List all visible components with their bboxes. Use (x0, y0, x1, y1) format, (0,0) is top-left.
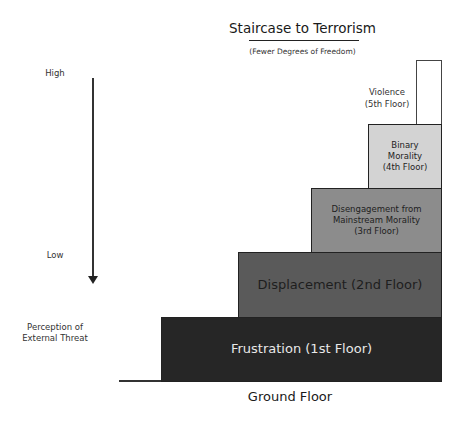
ground-floor-label: Ground Floor (190, 389, 390, 404)
threat-arrow-line (92, 78, 94, 278)
floor-4-box: Binary Morality (4th Floor) (368, 124, 442, 189)
diagram-title: Staircase to Terrorism (200, 20, 405, 36)
diagram-subtitle: (Fewer Degrees of Freedom) (200, 47, 405, 56)
floor-4-label: Binary Morality (4th Floor) (383, 140, 428, 173)
arrow-down-icon (88, 276, 98, 284)
title-underline (249, 40, 359, 41)
floor-3-box: Disengagement from Mainstream Morality (… (311, 188, 442, 253)
floor-1-box: Frustration (1st Floor) (161, 317, 442, 382)
perception-label: Perception of External Threat (5, 322, 105, 345)
low-label: Low (30, 250, 80, 260)
floor-2-box: Displacement (2nd Floor) (238, 252, 442, 318)
floor-5-label: Violence (5th Floor) (352, 87, 422, 111)
floor-2-label: Displacement (2nd Floor) (258, 277, 423, 294)
ground-line (119, 380, 161, 382)
floor-1-label: Frustration (1st Floor) (231, 341, 372, 358)
high-label: High (30, 68, 80, 78)
floor-3-label: Disengagement from Mainstream Morality (… (332, 204, 422, 237)
